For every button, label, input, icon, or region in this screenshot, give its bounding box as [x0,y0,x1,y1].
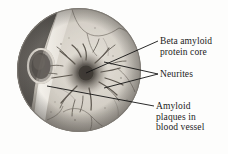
label-neurites: Neurites [160,69,193,80]
figure-container: Beta amyloid protein core Neurites Amylo… [0,0,228,154]
label-amyloid-plaques-in-blood-vessel: Amyloid plaques in blood vessel [156,101,204,133]
label-beta-amyloid-protein-core: Beta amyloid protein core [160,36,212,57]
circular-micrograph [17,8,141,132]
